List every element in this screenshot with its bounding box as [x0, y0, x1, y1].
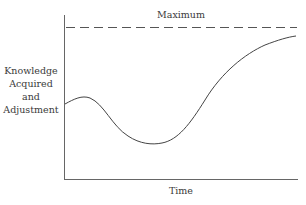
knowledge-curve [65, 36, 296, 144]
x-axis-label: Time [64, 184, 298, 197]
chart-plot [0, 0, 306, 205]
